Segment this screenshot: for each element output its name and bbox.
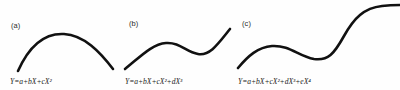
cubic-curve <box>125 29 230 69</box>
formula-quadratic: Y=a+bX+cX² <box>10 77 52 87</box>
quartic-curve-svg <box>236 0 400 74</box>
quadratic-curve-svg <box>0 0 122 74</box>
panel-c: (c) Y=a+bX+cX²+dX³+eX⁴ <box>236 0 400 90</box>
quartic-curve <box>238 5 400 68</box>
formula-quartic: Y=a+bX+cX²+dX³+eX⁴ <box>238 77 311 87</box>
panel-a: (a) Y=a+bX+cX² <box>0 0 122 90</box>
cubic-curve-svg <box>118 0 240 74</box>
figure-root: (a) Y=a+bX+cX² (b) Y=a+bX+cX²+dX³ (c) Y=… <box>0 0 400 90</box>
formula-cubic: Y=a+bX+cX²+dX³ <box>125 77 182 87</box>
panel-b: (b) Y=a+bX+cX²+dX³ <box>118 0 240 90</box>
quadratic-curve <box>18 34 113 71</box>
